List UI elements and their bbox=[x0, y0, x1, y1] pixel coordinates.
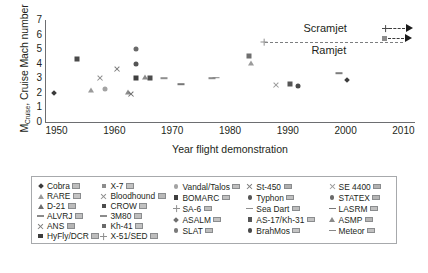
legend-item[interactable]: X-7 bbox=[99, 181, 171, 191]
country-flag-icon bbox=[284, 184, 292, 190]
legend-item-label: X-51/SED bbox=[110, 231, 147, 241]
legend-item[interactable]: D-21 bbox=[36, 201, 99, 211]
y-tick-label: 1 bbox=[20, 102, 42, 112]
country-flag-icon bbox=[370, 206, 378, 212]
legend-item[interactable]: X-51/SED bbox=[99, 231, 171, 241]
legend-item[interactable]: St-450 bbox=[245, 181, 327, 192]
data-point bbox=[344, 78, 350, 84]
data-point bbox=[88, 87, 94, 92]
country-flag-icon bbox=[286, 195, 294, 201]
legend-item[interactable]: SLAT bbox=[172, 225, 246, 236]
legend-item-label: St-450 bbox=[256, 182, 281, 192]
legend-item[interactable]: LASRM bbox=[328, 203, 393, 214]
country-flag-icon bbox=[91, 233, 99, 239]
legend-item-label: ASALM bbox=[183, 215, 211, 225]
legend-item[interactable]: SE 4400 bbox=[328, 181, 393, 192]
country-flag-icon bbox=[232, 184, 240, 190]
legend-marker-icon bbox=[245, 215, 254, 224]
arrowhead-icon bbox=[406, 24, 413, 32]
legend-item[interactable]: AS-17/Kh-31 bbox=[245, 214, 327, 225]
legend-item[interactable]: ALVRJ bbox=[36, 211, 99, 221]
legend-marker-icon bbox=[99, 192, 108, 201]
legend-item[interactable]: Cobra bbox=[36, 181, 99, 191]
legend-item[interactable]: Kh-41 bbox=[99, 221, 171, 231]
country-flag-icon bbox=[222, 195, 230, 201]
legend-item[interactable]: Typhon bbox=[245, 192, 327, 203]
plus-icon bbox=[100, 233, 107, 240]
legend-item[interactable]: CROW bbox=[99, 201, 171, 211]
legend-marker-icon bbox=[36, 222, 45, 231]
data-point bbox=[287, 82, 292, 87]
legend-marker-icon bbox=[36, 232, 45, 241]
data-point bbox=[133, 75, 138, 80]
legend-item[interactable]: HyFly/DCR bbox=[36, 231, 99, 241]
y-tick-label: 2 bbox=[20, 88, 42, 98]
dash-icon bbox=[329, 208, 336, 210]
square-icon bbox=[248, 217, 253, 222]
data-point bbox=[273, 81, 280, 88]
triangle-icon bbox=[38, 204, 44, 209]
legend-item[interactable]: SA-6 bbox=[172, 203, 246, 214]
x-icon bbox=[329, 183, 336, 190]
x-tick-label: 1990 bbox=[266, 125, 310, 137]
x-axis-title: Year flight demonstration bbox=[45, 143, 415, 155]
square-icon bbox=[38, 234, 43, 239]
legend-item-label: D-21 bbox=[47, 201, 65, 211]
y-tick-label: 6 bbox=[20, 30, 42, 40]
legend-item[interactable]: STATEX bbox=[328, 192, 393, 203]
legend-item[interactable]: Vandal/Talos bbox=[172, 181, 246, 192]
legend-item-label: RARE bbox=[47, 191, 70, 201]
legend-marker-icon bbox=[36, 182, 45, 191]
country-flag-icon bbox=[205, 228, 213, 234]
legend-item-label: ANS bbox=[47, 221, 64, 231]
country-flag-icon bbox=[150, 233, 158, 239]
chart-figure: MCruise, Cruise Mach number 76543210 195… bbox=[0, 0, 428, 273]
legend-item[interactable]: 3M80 bbox=[99, 211, 171, 221]
country-flag-icon bbox=[67, 223, 75, 229]
data-point bbox=[161, 77, 168, 79]
diamond-icon bbox=[173, 217, 179, 223]
legend-item[interactable]: ASALM bbox=[172, 214, 246, 225]
legend-marker-icon bbox=[99, 182, 108, 191]
y-tick-label: 7 bbox=[20, 15, 42, 25]
country-flag-icon bbox=[72, 183, 80, 189]
square-icon bbox=[102, 224, 107, 229]
country-flag-icon bbox=[68, 203, 76, 209]
legend-marker-icon bbox=[328, 182, 337, 191]
dash-icon bbox=[329, 230, 336, 232]
legend-marker-icon bbox=[172, 226, 181, 235]
legend-item[interactable]: Bloodhound bbox=[99, 191, 171, 201]
legend-item-label: STATEX bbox=[339, 193, 370, 203]
data-point bbox=[51, 90, 57, 96]
legend-item[interactable]: ASMP bbox=[328, 214, 393, 225]
dash-icon bbox=[246, 208, 253, 210]
legend-column: Vandal/TalosBOMARCSA-6ASALMSLAT bbox=[172, 181, 246, 240]
triangle-icon bbox=[38, 194, 44, 199]
country-flag-icon bbox=[135, 223, 143, 229]
circle-icon bbox=[174, 184, 179, 189]
legend-marker-icon bbox=[36, 192, 45, 201]
legend-marker-icon bbox=[99, 222, 108, 231]
country-flag-icon bbox=[75, 213, 83, 219]
legend-item[interactable]: ANS bbox=[36, 221, 99, 231]
legend-item-label: HyFly/DCR bbox=[47, 231, 89, 241]
legend-item[interactable]: BOMARC bbox=[172, 192, 246, 203]
legend-item[interactable]: RARE bbox=[36, 191, 99, 201]
x-tick-label: 1960 bbox=[92, 125, 136, 137]
legend-column: X-7BloodhoundCROW3M80Kh-41X-51/SED bbox=[99, 181, 171, 240]
data-point bbox=[213, 77, 220, 79]
x-tick-label: 1980 bbox=[208, 125, 252, 137]
circle-icon bbox=[248, 195, 253, 200]
legend-item-label: BOMARC bbox=[183, 193, 220, 203]
legend-marker-icon bbox=[172, 215, 181, 224]
legend-item[interactable]: Sea Dart bbox=[245, 203, 327, 214]
legend-item[interactable]: Meteor bbox=[328, 225, 393, 236]
legend-marker-icon bbox=[328, 204, 337, 213]
legend-item-label: AS-17/Kh-31 bbox=[256, 215, 304, 225]
dashed-line bbox=[388, 38, 404, 39]
x-tick-label: 2000 bbox=[324, 125, 368, 137]
square-icon bbox=[174, 195, 179, 200]
legend-item[interactable]: BrahMos bbox=[245, 225, 327, 236]
legend-marker-icon bbox=[328, 226, 337, 235]
annotation-scramjet: Scramjet bbox=[303, 22, 346, 34]
